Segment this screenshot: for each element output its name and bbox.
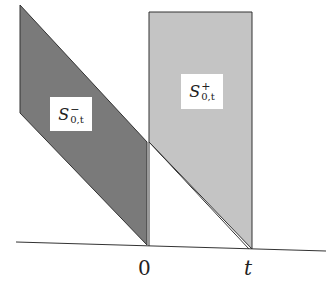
diagram-canvas bbox=[0, 0, 334, 287]
tick-label-zero: 0 bbox=[138, 256, 151, 280]
label-s-plus: S + 0,t bbox=[181, 74, 223, 109]
label-s-minus: S − 0,t bbox=[50, 97, 92, 131]
label-s-minus-sub: 0,t bbox=[70, 115, 84, 125]
tick-label-t: t bbox=[244, 256, 252, 280]
label-s-plus-sub: 0,t bbox=[201, 92, 215, 102]
label-s-plus-base: S bbox=[189, 82, 200, 101]
label-s-minus-sup: − bbox=[70, 104, 84, 115]
label-s-minus-base: S bbox=[58, 105, 69, 124]
